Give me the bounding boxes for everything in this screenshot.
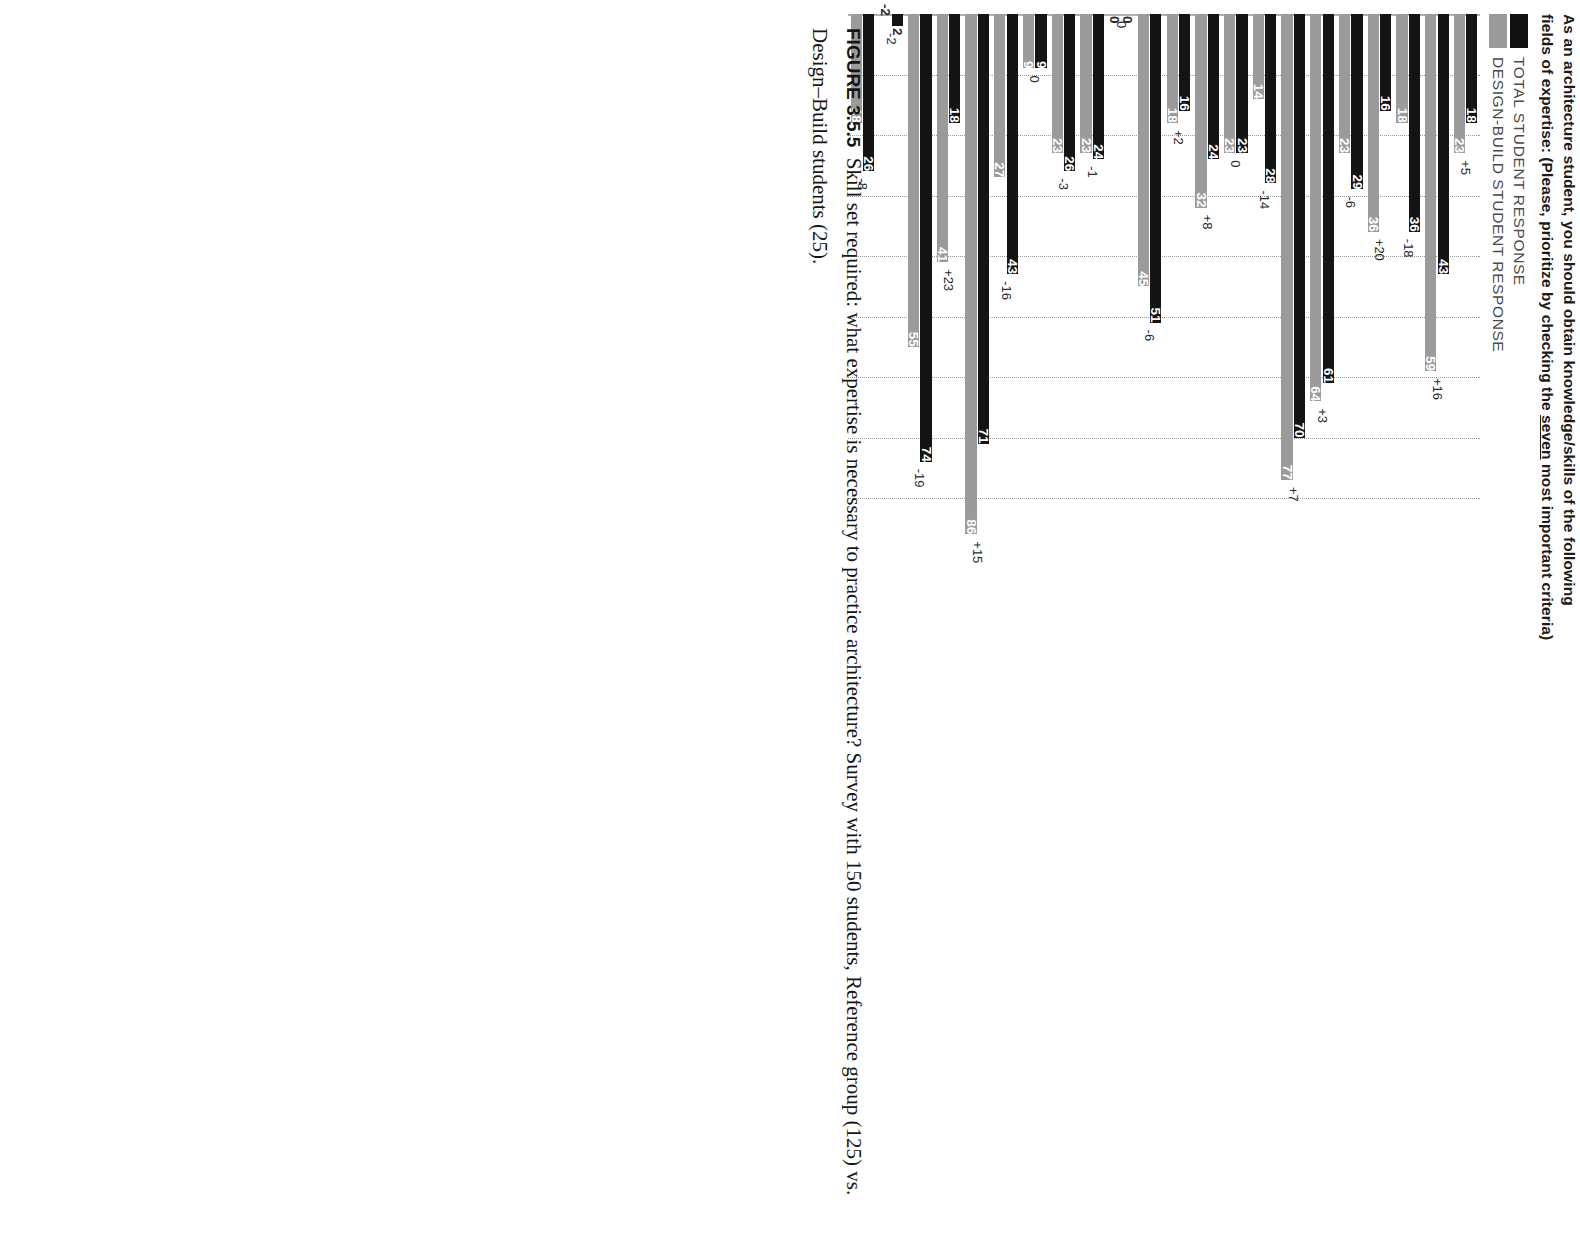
bar-delta-label: -19 (914, 469, 925, 488)
chart-plot-area: 1823+54359+163618-181636+202923-66164+37… (848, 14, 1480, 1192)
bar-group: 7077+7 (1281, 14, 1305, 1192)
bar-delta-label: +3 (1317, 408, 1328, 423)
bar-value-label: 24 (1208, 14, 1219, 159)
bar-delta-label: 0 (1029, 75, 1040, 82)
bar-value-label: 9 (1023, 14, 1034, 68)
bar-group: 3618-18 (1396, 14, 1420, 1192)
bar-group: 2814-14 (1253, 14, 1277, 1192)
bar-value-label: 29 (1352, 14, 1363, 189)
bar-group: 2-2-2 (879, 14, 903, 1192)
bar-value-label: 51 (1150, 14, 1161, 323)
bar-value-label: 61 (1323, 14, 1334, 383)
bar-value-label: 9 (1036, 14, 1047, 68)
bar-value-label: 70 (1294, 14, 1305, 438)
bar-value-label: 43 (1007, 14, 1018, 274)
bar-group: 000 (1109, 14, 1133, 1192)
bar-value-label: 24 (1093, 14, 1104, 159)
figure-caption-text: FIGURE 3.5.5 Skill set required: what ex… (803, 28, 871, 1238)
bar-value-label: 18 (949, 14, 960, 123)
bar-value-label: 23 (1081, 14, 1092, 153)
bar-value-label: 41 (937, 14, 948, 262)
bar-group: 1618+2 (1167, 14, 1191, 1192)
bar-group: 4327-16 (994, 14, 1018, 1192)
bar-delta-label: -3 (1058, 178, 1069, 190)
bar-value-label: 45 (1138, 14, 1149, 286)
bar-group: 1636+20 (1368, 14, 1392, 1192)
bar-delta-label: -6 (1345, 196, 1356, 208)
bar-value-label: 26 (1064, 14, 1075, 171)
bar-value-label: 23 (1237, 14, 1248, 153)
bar-delta-label: 0 (1116, 21, 1127, 28)
bar-delta-label: +5 (1460, 160, 1471, 175)
bar-delta-label: -1 (1087, 166, 1098, 178)
bar-value-label: 23 (1052, 14, 1063, 153)
bar-value-label: -2 (880, 4, 891, 30)
bar-group: 4359+16 (1425, 14, 1449, 1192)
bar-value-label: 36 (1368, 14, 1379, 232)
bar-delta-label: -6 (1144, 330, 1155, 342)
bar-delta-label: -2 (886, 33, 897, 45)
figure-caption-number: FIGURE 3.5.5 (843, 28, 864, 147)
bar-delta-label: +23 (943, 269, 954, 291)
bar-group: 2923-6 (1339, 14, 1363, 1192)
bar-group: 7455-19 (908, 14, 932, 1192)
bar-value-label: 16 (1380, 14, 1391, 111)
figure-caption: FIGURE 3.5.5 Skill set required: what ex… (790, 0, 877, 1257)
bar-group: 6164+3 (1310, 14, 1334, 1192)
bar-value-label: 23 (1339, 14, 1350, 153)
bar-group: 7186+15 (965, 14, 989, 1192)
bar-value-label: 18 (1167, 14, 1178, 123)
chart-title: As an architecture student, you should o… (1535, 14, 1580, 1194)
bar-group: 1841+23 (937, 14, 961, 1192)
bar-value-label: 14 (1253, 14, 1264, 99)
bar-value-label: 27 (994, 14, 1005, 177)
bar-value-label: 18 (1466, 14, 1477, 123)
bar-group: 2432+8 (1195, 14, 1219, 1192)
bar-value-label: 64 (1310, 14, 1321, 401)
bar-value-label: 86 (966, 14, 977, 534)
bar-group: 1823+5 (1454, 14, 1478, 1192)
bar-delta-label: +8 (1202, 215, 1213, 230)
bar-value-label: 71 (978, 14, 989, 444)
bar-value-label: 77 (1282, 14, 1293, 480)
bar-value-label: 55 (908, 14, 919, 347)
bar-delta-label: +16 (1432, 378, 1443, 400)
bar-delta-label: +20 (1374, 239, 1385, 261)
bar-delta-label: +15 (972, 541, 983, 563)
bar-value-label: 0 (1109, 16, 1120, 42)
bar-delta-label: -16 (1001, 281, 1012, 300)
bar-total (892, 14, 903, 26)
legend-label-designbuild: DESIGN-BUILD STUDENT RESPONSE (1489, 57, 1507, 352)
chart-title-line-1: As an architecture student, you should o… (1558, 14, 1580, 1194)
bar-group: 2623-3 (1052, 14, 1076, 1192)
bar-value-label: 59 (1425, 14, 1436, 371)
bar-group: 2423-1 (1080, 14, 1104, 1192)
bar-value-label: 16 (1179, 14, 1190, 111)
bar-value-label: 36 (1409, 14, 1420, 232)
legend-swatch-designbuild (1489, 14, 1507, 48)
chart-title-line-2: fields of expertise: (Please, prioritize… (1535, 14, 1557, 1194)
bar-value-label: 23 (1224, 14, 1235, 153)
bar-group: 990 (1023, 14, 1047, 1192)
bar-delta-label: -18 (1403, 239, 1414, 258)
bar-delta-label: 0 (1230, 160, 1241, 167)
chart-stage: As an architecture student, you should o… (790, 0, 1580, 1257)
chart-title-emphasis: seven (1539, 415, 1556, 459)
bar-value-label: 32 (1196, 14, 1207, 208)
bar-value-label: 0 (1122, 16, 1133, 42)
chart-legend: TOTAL STUDENT RESPONSE DESIGN-BUILD STUD… (1486, 14, 1528, 352)
figure-caption-body: Skill set required: what expertise is ne… (808, 28, 866, 1195)
bar-delta-label: +7 (1288, 487, 1299, 502)
bar-value-label: 23 (1454, 14, 1465, 153)
bar-value-label: 43 (1438, 14, 1449, 274)
legend-label-total: TOTAL STUDENT RESPONSE (1510, 57, 1528, 286)
legend-swatch-total (1510, 14, 1528, 48)
bar-delta-label: -14 (1259, 190, 1270, 209)
bar-group: 5145-6 (1138, 14, 1162, 1192)
bar-delta-label: +2 (1173, 130, 1184, 145)
legend-item-designbuild: DESIGN-BUILD STUDENT RESPONSE (1489, 14, 1507, 352)
bar-value-label: 74 (921, 14, 932, 462)
legend-item-total: TOTAL STUDENT RESPONSE (1510, 14, 1528, 352)
